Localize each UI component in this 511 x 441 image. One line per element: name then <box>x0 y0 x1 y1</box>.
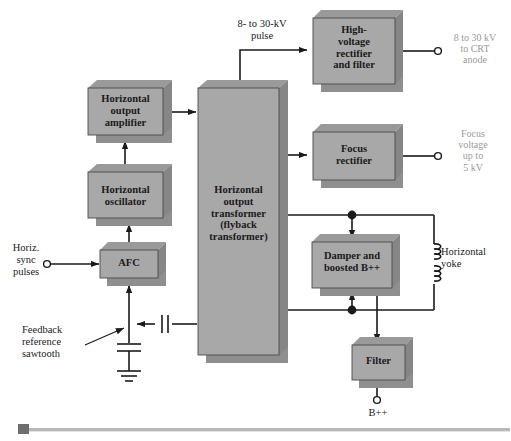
output-label-focus-voltage: Focus voltage up to 5 kV <box>443 128 503 173</box>
horizontal-yoke-coil-icon <box>434 244 441 281</box>
signal-label-bpp-terminal: B++ <box>357 407 399 419</box>
signal-label-horizontal-yoke: Horizontal yoke <box>441 246 503 270</box>
feedback-callout-leader <box>85 328 124 345</box>
block-label-high-voltage-rectifier: High- voltage rectifier and filter <box>313 24 395 71</box>
block-label-filter: Filter <box>352 355 405 367</box>
block-side <box>163 164 172 218</box>
block-side <box>392 234 400 288</box>
junction-dot-yoke-top <box>348 211 355 218</box>
block-label-afc: AFC <box>100 257 158 269</box>
block-top <box>312 234 400 242</box>
block-top <box>100 242 166 250</box>
block-top <box>313 124 403 132</box>
terminal-crt-anode <box>435 48 442 55</box>
block-label-focus-rectifier: Focus rectifier <box>313 143 395 167</box>
block-side <box>395 10 403 84</box>
block-top <box>352 337 413 345</box>
block-side <box>395 124 403 180</box>
footer-rule <box>29 428 510 431</box>
block-label-damper-boosted-bpp: Damper and boosted B++ <box>312 250 392 274</box>
block-label-horizontal-oscillator: Horizontal oscillator <box>88 184 163 208</box>
terminal-bpp-output <box>374 397 381 404</box>
footer-square <box>18 424 29 434</box>
signal-label-feedback-sawtooth: Feedback reference sawtooth <box>22 324 84 359</box>
block-label-horizontal-output-amplifier: Horizontal output amplifier <box>88 93 163 128</box>
output-label-crt-anode: 8 to 30 kV to CRT anode <box>443 32 507 66</box>
signal-label-sync-input: Horiz. sync pulses <box>5 242 47 277</box>
block-side <box>163 80 172 135</box>
block-top <box>88 80 172 88</box>
block-side <box>279 80 288 355</box>
block-label-horizontal-output-transformer: Horizontal output transformer (flyback t… <box>198 184 279 243</box>
signal-label-hv-pulse: 8- to 30-kV pulse <box>212 18 312 42</box>
block-top <box>313 10 403 18</box>
junction-dot-yoke-bottom <box>348 306 355 313</box>
terminal-focus-voltage <box>435 153 442 160</box>
block-top <box>88 164 172 172</box>
block-top <box>198 80 288 88</box>
